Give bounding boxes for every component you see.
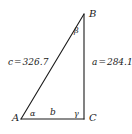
vertex-label-a: A: [12, 113, 19, 123]
angle-label-gamma: γ: [74, 110, 79, 118]
vertex-label-c: C: [89, 113, 97, 123]
side-c-equals: =: [13, 57, 23, 67]
side-label-b: b: [50, 108, 56, 117]
side-a-measure-label: a=284.1: [92, 58, 132, 67]
triangle-figure: A B C α β γ b c=326.7 a=284.1: [0, 0, 132, 134]
angle-label-alpha: α: [30, 110, 35, 118]
side-c-value: 326.7: [23, 57, 49, 67]
side-a-value: 284.1: [107, 57, 132, 67]
angle-label-beta: β: [74, 27, 79, 35]
side-a-equals: =: [97, 57, 107, 67]
triangle-drawing: [0, 0, 132, 134]
side-c-measure-label: c=326.7: [8, 58, 48, 67]
vertex-label-b: B: [89, 9, 96, 19]
